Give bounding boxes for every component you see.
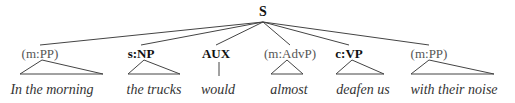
leaf-almost: almost — [270, 82, 307, 98]
branch-line-0 — [40, 22, 263, 45]
root-node-s: S — [259, 4, 267, 20]
triangle-icon-5 — [411, 60, 494, 74]
triangle-icon-1 — [128, 60, 180, 74]
triangle-icon-4 — [336, 60, 384, 74]
leaf-the-trucks: the trucks — [127, 82, 182, 98]
node-c-vp: c:VP — [335, 47, 362, 61]
triangle-icon-3 — [271, 60, 303, 74]
node-aux: AUX — [202, 47, 230, 61]
branch-line-1 — [141, 22, 263, 45]
leaf-in-the-morning: In the morning — [10, 82, 93, 98]
branch-line-5 — [263, 22, 429, 45]
leaf-with-their-noise: with their noise — [410, 82, 497, 98]
node-m-pp-1: (m:PP) — [22, 47, 59, 61]
branch-line-2 — [216, 22, 263, 45]
node-m-advp: (m:AdvP) — [264, 47, 316, 61]
triangle-icon-0 — [20, 60, 103, 74]
node-m-pp-2: (m:PP) — [411, 47, 448, 61]
leaf-would: would — [201, 82, 235, 98]
node-s-np: s:NP — [128, 47, 155, 61]
leaf-deafen-us: deafen us — [336, 82, 389, 98]
